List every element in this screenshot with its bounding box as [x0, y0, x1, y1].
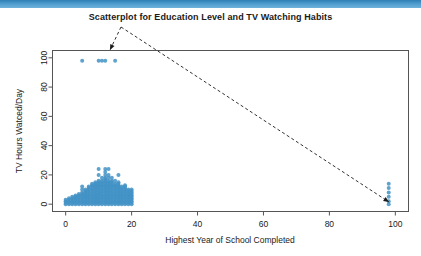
data-point [97, 167, 101, 171]
x-tick-label: 60 [259, 219, 269, 229]
missing-value-code-98-x-line [121, 27, 389, 202]
x-tick-label: 40 [193, 219, 203, 229]
data-point [110, 176, 114, 180]
data-point [130, 188, 134, 192]
y-tick-label: 20 [40, 170, 50, 180]
x-tick-label: 100 [388, 219, 402, 229]
y-tick-label: 100 [40, 50, 50, 64]
scatterplot-figure: 020406080100 020406080100 TV Hours Watce… [0, 0, 421, 256]
data-point [387, 182, 391, 186]
data-point [107, 173, 111, 177]
missing-value-code-98-y-arrowhead [110, 44, 114, 50]
scatterplot-page: Scatterplot for Education Level and TV W… [0, 0, 421, 256]
annotation-arrows [110, 27, 389, 202]
data-point [103, 59, 107, 63]
data-point [387, 190, 391, 194]
data-point [113, 59, 117, 63]
y-tick-label: 0 [40, 202, 50, 207]
data-point [387, 186, 391, 190]
data-point [107, 167, 111, 171]
x-axis-title: Highest Year of School Completed [165, 235, 295, 245]
data-point [116, 180, 120, 184]
data-point [80, 185, 84, 189]
y-tick-label: 80 [40, 82, 50, 92]
data-point [80, 59, 84, 63]
y-tick-label: 60 [40, 111, 50, 121]
x-tick-label: 80 [325, 219, 335, 229]
data-point [116, 173, 120, 177]
y-axis: 020406080100 [40, 50, 53, 206]
y-axis-title: TV Hours Watced/Day [14, 88, 24, 173]
y-tick-label: 40 [40, 141, 50, 151]
data-point [123, 183, 127, 187]
x-tick-label: 0 [63, 219, 68, 229]
data-point [387, 195, 391, 199]
data-points [64, 59, 391, 206]
x-axis: 020406080100 [63, 212, 402, 229]
data-point [97, 173, 101, 177]
x-tick-label: 20 [127, 219, 137, 229]
